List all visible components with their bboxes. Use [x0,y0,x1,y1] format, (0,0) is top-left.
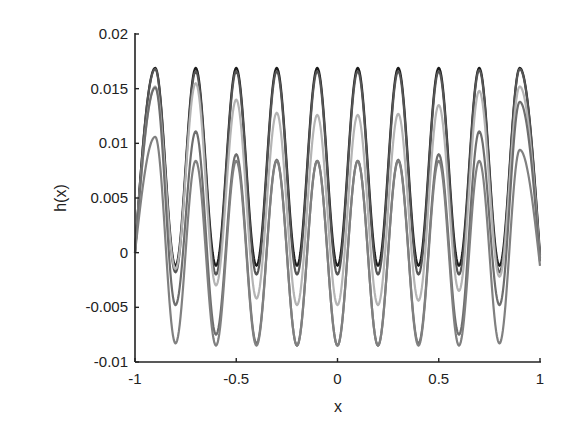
series-line-curve-4 [135,88,540,346]
y-tick-label: -0.01 [94,353,128,370]
y-tick-label: 0.005 [90,189,128,206]
series-line-curve-1 [135,68,540,266]
plot-series [135,68,540,346]
series-line-curve-5 [135,137,540,346]
y-axis-label: h(x) [52,184,69,212]
x-tick-label: 0.5 [428,370,449,387]
y-ticks: -0.01-0.00500.0050.010.0150.02 [85,25,139,370]
y-tick-label: -0.005 [85,298,128,315]
x-tick-label: 1 [536,370,544,387]
x-tick-label: 0 [333,370,341,387]
series-line-curve-2 [135,69,540,275]
series-line-curve-3 [135,83,540,305]
x-tick-label: -0.5 [223,370,249,387]
x-tick-label: -1 [128,370,141,387]
line-chart: -0.01-0.00500.0050.010.0150.02 -1-0.500.… [0,0,571,443]
y-tick-label: 0.015 [90,80,128,97]
y-tick-label: 0.02 [99,25,128,42]
y-tick-label: 0.01 [99,134,128,151]
y-tick-label: 0 [120,244,128,261]
x-axis-label: x [334,398,342,415]
